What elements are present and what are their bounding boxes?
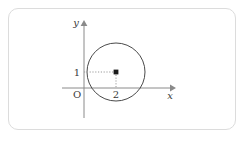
y-axis-arrow-icon: [81, 20, 88, 26]
coordinate-plane-figure: y x O 1 2: [0, 0, 246, 141]
y-axis-label: y: [72, 17, 79, 28]
y-tick-label-1: 1: [74, 67, 80, 78]
x-axis-label: x: [167, 90, 173, 101]
circle-center-point: [114, 70, 119, 75]
origin-label: O: [73, 89, 81, 100]
x-tick-label-2: 2: [113, 89, 119, 100]
